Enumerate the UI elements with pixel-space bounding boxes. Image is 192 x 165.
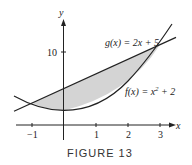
y-axis-arrow-icon <box>61 19 66 26</box>
f-function-label: f(x) = x2 + 2 <box>125 85 175 98</box>
tick-label-2: 2 <box>126 129 131 140</box>
figure-caption: FIGURE 13 <box>67 147 133 159</box>
g-line <box>14 37 176 111</box>
tick-label-3: 3 <box>158 129 163 140</box>
x-axis-arrow-icon <box>169 123 176 128</box>
y-axis-label: y <box>58 7 64 18</box>
g-function-label: g(x) = 2x + 5 <box>105 37 159 49</box>
x-axis-label: x <box>175 120 181 131</box>
figure-graph: x y −1 1 2 3 10 g(x) = 2x + 5 f(x) = x2 … <box>0 0 192 165</box>
tick-label-neg1: −1 <box>27 129 38 140</box>
tick-label-1: 1 <box>94 129 99 140</box>
tick-label-10: 10 <box>47 47 57 58</box>
